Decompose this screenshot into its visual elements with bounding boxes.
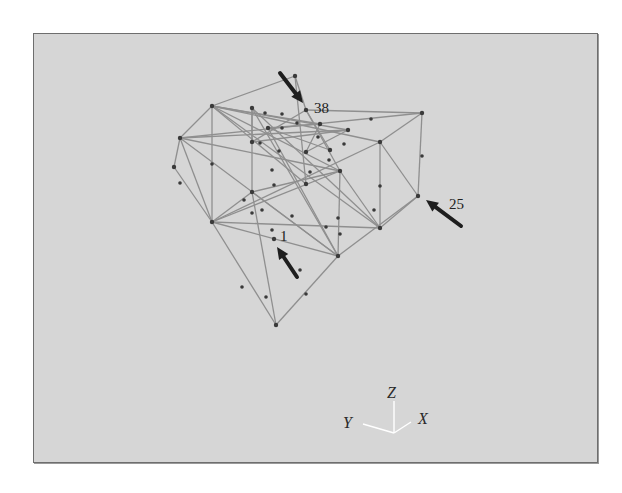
member-midpoint-node <box>240 285 244 289</box>
truss-node-ctr <box>304 182 308 186</box>
truss-node-lm <box>178 136 182 140</box>
member-midpoint-node <box>295 121 299 125</box>
truss-wireframe: 38251 ZYX <box>0 0 622 493</box>
node-label-25: 25 <box>449 196 464 212</box>
member-midpoint-node <box>258 141 262 145</box>
truss-node-t7 <box>328 148 332 152</box>
arrow-icon <box>284 257 297 277</box>
truss-member <box>380 113 422 142</box>
member-midpoint-node <box>242 198 246 202</box>
member-midpoint-node <box>178 181 182 185</box>
member-midpoint-node <box>420 154 424 158</box>
truss-node-ul <box>210 104 214 108</box>
member-midpoint-node <box>260 208 264 212</box>
truss-member <box>338 171 340 256</box>
member-midpoint-node <box>327 158 331 162</box>
member-midpoint-node <box>324 225 328 229</box>
truss-member <box>340 171 380 228</box>
truss-member <box>174 167 212 222</box>
truss-node-apex <box>293 74 297 78</box>
truss-member <box>380 142 418 196</box>
member-midpoint-node <box>316 135 320 139</box>
truss-member <box>180 106 212 138</box>
member-midpoint-node <box>263 111 267 115</box>
y-axis-line <box>363 424 394 433</box>
truss-node-mli <box>250 190 254 194</box>
truss-node-bot <box>274 323 278 327</box>
member-midpoint-node <box>308 170 312 174</box>
truss-node-t1 <box>250 106 254 110</box>
member-midpoint-node <box>250 211 254 215</box>
member-midpoint-node <box>277 149 281 153</box>
x-axis-label: X <box>417 410 429 427</box>
member-midpoint-node <box>304 292 308 296</box>
truss-member <box>212 76 295 106</box>
axis-triad: ZYX <box>343 384 429 433</box>
truss-node-t2 <box>318 122 322 126</box>
truss-node-bl <box>210 220 214 224</box>
member-midpoint-node <box>298 268 302 272</box>
node-label-1: 1 <box>280 228 288 244</box>
truss-node-cb <box>336 254 340 258</box>
truss-member <box>212 192 252 222</box>
member-midpoint-node <box>290 214 294 218</box>
y-axis-label: Y <box>343 414 354 431</box>
truss-node-t6 <box>250 140 254 144</box>
x-axis-line <box>394 422 411 433</box>
truss-node-n38 <box>304 108 308 112</box>
member-midpoint-node <box>336 216 340 220</box>
member-midpoint-node <box>264 295 268 299</box>
member-midpoint-node <box>369 117 373 121</box>
member-midpoint-node <box>372 208 376 212</box>
truss-node-rm <box>378 140 382 144</box>
member-midpoint-node <box>280 112 284 116</box>
truss-member <box>212 171 340 222</box>
member-midpoint-node <box>270 168 274 172</box>
truss-node-n25 <box>416 194 420 198</box>
member-midpoint-node <box>342 142 346 146</box>
member-midpoint-node <box>270 228 274 232</box>
truss-node-t3 <box>346 128 350 132</box>
truss-node-cr <box>338 169 342 173</box>
truss-node-n1 <box>272 237 276 241</box>
truss-member <box>276 256 338 325</box>
member-midpoint-node <box>280 126 284 130</box>
truss-node-t4 <box>266 126 270 130</box>
truss-node-ur <box>420 111 424 115</box>
node-label-38: 38 <box>314 100 329 116</box>
member-midpoint-node <box>272 183 276 187</box>
truss-member <box>268 128 338 256</box>
truss-members <box>174 76 422 325</box>
truss-node-fl <box>172 165 176 169</box>
z-axis-label: Z <box>387 384 397 401</box>
member-midpoint-node <box>338 232 342 236</box>
member-midpoint-node <box>210 162 214 166</box>
member-midpoint-node <box>378 184 382 188</box>
truss-member <box>174 138 180 167</box>
truss-node-t5 <box>304 150 308 154</box>
truss-node-lr <box>378 226 382 230</box>
